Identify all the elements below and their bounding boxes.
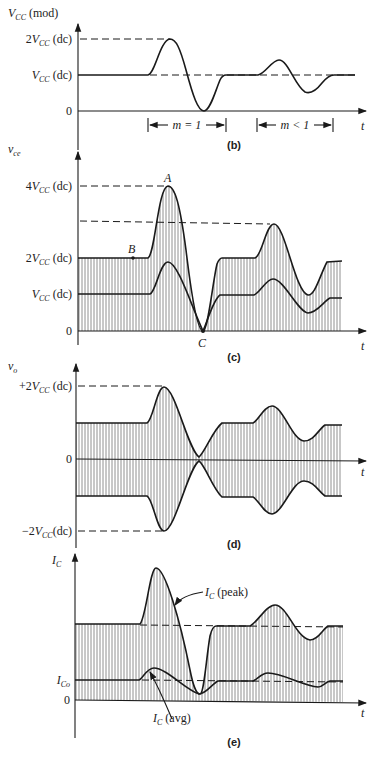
- caption-b: (b): [227, 139, 241, 151]
- tick-zero-c: 0: [66, 324, 72, 338]
- panel-d: vo +2VCC (dc) 0 −2VCC(dc) t (d): [8, 359, 366, 550]
- panel-b: VCC (mod) 2VCC (dc) VCC (dc) 0 t m = 1 m…: [8, 6, 366, 151]
- tick-zero-d: 0: [66, 452, 72, 466]
- interval-m-less-1: m < 1: [281, 118, 310, 132]
- y-axis-label-d: vo: [8, 359, 17, 375]
- tick-zero-b: 0: [66, 104, 72, 118]
- ic-peak-label: IC (peak): [204, 585, 248, 601]
- tick-minus-2vcc-d: −2VCC(dc): [22, 524, 72, 540]
- point-b-label: B: [128, 242, 136, 256]
- point-c-marker: [201, 329, 205, 333]
- y-axis-label-b: VCC (mod): [8, 6, 58, 22]
- ic-peak-leader: [175, 592, 203, 605]
- modulation-waveforms-diagram: VCC (mod) 2VCC (dc) VCC (dc) 0 t m = 1 m…: [0, 0, 380, 760]
- x-axis-label-d: t: [361, 465, 365, 479]
- caption-d: (d): [227, 538, 241, 550]
- panel-e: IC ICo 0 IC (peak) IC (avg) t (e): [51, 553, 366, 748]
- tick-plus-2vcc-d: +2VCC (dc): [19, 379, 72, 395]
- x-axis-label-c: t: [361, 339, 365, 353]
- ic-avg-label: IC (avg): [152, 711, 191, 727]
- caption-c: (c): [227, 351, 241, 363]
- interval-m-equals-1: m = 1: [173, 118, 202, 132]
- point-a-label: A: [163, 171, 172, 185]
- x-axis-label-b: t: [361, 119, 365, 133]
- tick-2vcc-b: 2VCC (dc): [26, 32, 72, 48]
- point-c-label: C: [198, 336, 207, 350]
- tick-4vcc-c: 4VCC (dc): [26, 179, 72, 195]
- y-axis-label-e: IC: [51, 553, 62, 569]
- point-b-marker: [131, 256, 135, 260]
- tick-zero-e: 0: [64, 693, 70, 707]
- tick-vcc-c: VCC (dc): [32, 287, 72, 303]
- caption-e: (e): [227, 736, 241, 748]
- tick-ico-e: ICo: [56, 673, 70, 689]
- tick-vcc-b: VCC (dc): [32, 68, 72, 84]
- panel-c: vce 4VCC (dc) 2VCC (dc) VCC (dc) 0 A B C…: [8, 142, 366, 363]
- y-axis-label-c: vce: [8, 142, 21, 158]
- x-axis-label-e: t: [361, 706, 365, 720]
- tick-2vcc-c: 2VCC (dc): [26, 251, 72, 267]
